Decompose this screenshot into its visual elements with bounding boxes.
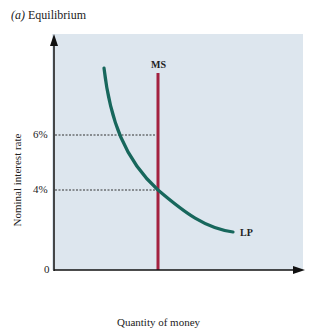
origin-label: 0 xyxy=(44,263,50,275)
y-axis-label: Nominal interest rate xyxy=(11,125,23,235)
lp-label: LP xyxy=(240,227,253,238)
chart-svg xyxy=(0,0,317,330)
x-axis-label: Quantity of money xyxy=(0,316,317,328)
lp-curve xyxy=(104,68,233,232)
y-tick-4: 4% xyxy=(33,183,48,195)
y-tick-6: 6% xyxy=(33,128,48,140)
ms-label: MS xyxy=(151,59,166,70)
y-axis-arrow-icon xyxy=(50,34,58,46)
x-axis-arrow-icon xyxy=(293,266,305,274)
